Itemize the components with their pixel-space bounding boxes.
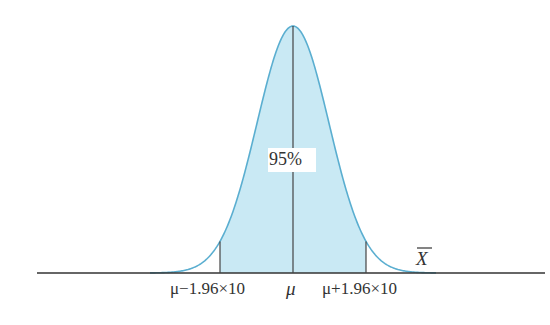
axis-label-xbar: X <box>416 248 428 270</box>
area-label: 95% <box>269 149 302 170</box>
upper-bound-label: μ+1.96×10 <box>322 279 397 299</box>
mean-label: μ <box>286 278 296 300</box>
lower-bound-label: μ−1.96×10 <box>170 279 245 299</box>
